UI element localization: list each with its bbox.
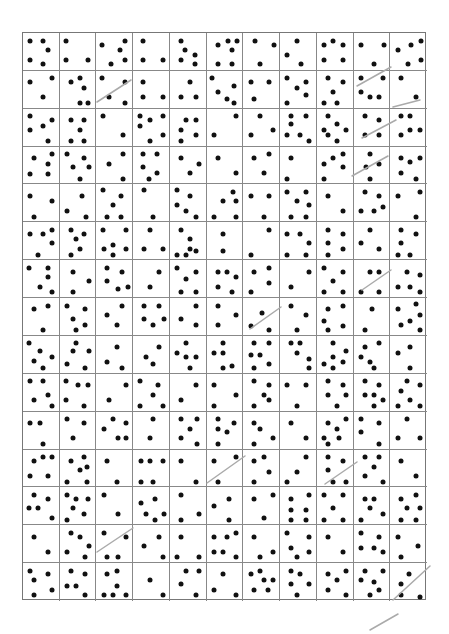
dot-cell[interactable] [23,450,60,488]
dot-cell[interactable] [317,109,354,147]
dot-cell[interactable] [60,563,97,601]
dot-cell[interactable] [317,222,354,260]
dot-cell[interactable] [243,525,280,563]
dot-cell[interactable] [60,374,97,412]
dot-cell[interactable] [390,487,427,525]
dot-cell[interactable] [317,33,354,71]
dot-cell[interactable] [354,525,391,563]
dot-cell[interactable] [23,260,60,298]
dot-cell[interactable] [60,33,97,71]
dot-cell[interactable] [133,525,170,563]
dot-cell[interactable] [170,71,207,109]
dot-cell[interactable] [280,260,317,298]
dot-cell[interactable] [23,184,60,222]
dot-cell[interactable] [354,184,391,222]
dot-cell[interactable] [170,184,207,222]
dot-cell[interactable] [60,336,97,374]
dot-cell[interactable] [390,109,427,147]
dot-cell[interactable] [317,147,354,185]
dot-cell[interactable] [96,71,133,109]
dot-cell[interactable] [96,260,133,298]
dot-cell[interactable] [207,184,244,222]
dot-cell[interactable] [354,412,391,450]
dot-cell[interactable] [96,298,133,336]
dot-cell[interactable] [23,525,60,563]
dot-cell[interactable] [60,298,97,336]
dot-cell[interactable] [133,147,170,185]
dot-cell[interactable] [243,450,280,488]
dot-cell[interactable] [317,412,354,450]
dot-cell[interactable] [207,450,244,488]
dot-cell[interactable] [96,374,133,412]
dot-cell[interactable] [170,450,207,488]
dot-cell[interactable] [207,525,244,563]
dot-cell[interactable] [317,374,354,412]
dot-cell[interactable] [390,71,427,109]
dot-cell[interactable] [170,525,207,563]
dot-cell[interactable] [354,563,391,601]
dot-cell[interactable] [243,109,280,147]
dot-cell[interactable] [133,33,170,71]
dot-cell[interactable] [280,450,317,488]
dot-cell[interactable] [170,487,207,525]
dot-cell[interactable] [354,222,391,260]
dot-cell[interactable] [280,336,317,374]
dot-cell[interactable] [96,147,133,185]
dot-cell[interactable] [170,33,207,71]
dot-cell[interactable] [170,374,207,412]
dot-cell[interactable] [243,184,280,222]
dot-cell[interactable] [133,450,170,488]
dot-cell[interactable] [60,184,97,222]
dot-cell[interactable] [23,298,60,336]
dot-cell[interactable] [354,298,391,336]
dot-cell[interactable] [317,71,354,109]
dot-cell[interactable] [354,147,391,185]
dot-cell[interactable] [243,374,280,412]
dot-cell[interactable] [354,109,391,147]
dot-cell[interactable] [96,222,133,260]
dot-cell[interactable] [280,109,317,147]
dot-cell[interactable] [317,525,354,563]
dot-cell[interactable] [60,71,97,109]
dot-cell[interactable] [317,563,354,601]
dot-cell[interactable] [96,109,133,147]
dot-cell[interactable] [390,412,427,450]
dot-cell[interactable] [207,298,244,336]
dot-cell[interactable] [390,450,427,488]
dot-cell[interactable] [390,525,427,563]
dot-cell[interactable] [133,71,170,109]
dot-cell[interactable] [207,487,244,525]
dot-cell[interactable] [280,184,317,222]
dot-cell[interactable] [133,374,170,412]
dot-cell[interactable] [243,298,280,336]
dot-cell[interactable] [96,336,133,374]
dot-cell[interactable] [280,487,317,525]
dot-cell[interactable] [207,412,244,450]
dot-cell[interactable] [280,147,317,185]
dot-cell[interactable] [280,412,317,450]
dot-cell[interactable] [243,33,280,71]
dot-cell[interactable] [354,487,391,525]
dot-cell[interactable] [243,222,280,260]
dot-cell[interactable] [60,450,97,488]
dot-cell[interactable] [23,412,60,450]
dot-cell[interactable] [317,184,354,222]
dot-cell[interactable] [317,336,354,374]
dot-cell[interactable] [243,147,280,185]
dot-cell[interactable] [23,563,60,601]
dot-cell[interactable] [170,222,207,260]
dot-cell[interactable] [390,563,427,601]
dot-cell[interactable] [60,487,97,525]
dot-cell[interactable] [96,450,133,488]
dot-cell[interactable] [207,109,244,147]
dot-cell[interactable] [354,33,391,71]
dot-cell[interactable] [170,298,207,336]
dot-cell[interactable] [390,374,427,412]
dot-cell[interactable] [60,412,97,450]
dot-cell[interactable] [96,525,133,563]
dot-cell[interactable] [354,260,391,298]
dot-cell[interactable] [207,563,244,601]
dot-cell[interactable] [390,147,427,185]
dot-cell[interactable] [23,147,60,185]
dot-cell[interactable] [60,147,97,185]
